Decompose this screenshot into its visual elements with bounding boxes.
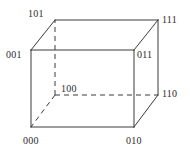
edge-100-000-hidden — [31, 95, 55, 127]
vertex-label-001: 001 — [6, 49, 22, 60]
cube-back-face-edges — [55, 20, 158, 127]
vertex-label-100: 100 — [61, 83, 77, 94]
vertex-label-110: 110 — [162, 88, 177, 99]
vertex-label-101: 101 — [28, 8, 44, 19]
vertex-label-000: 000 — [23, 135, 39, 146]
cube-hidden-edges — [31, 20, 158, 127]
vertex-label-111: 111 — [162, 14, 177, 25]
cube-front-face-edges — [31, 50, 134, 127]
edge-110-010 — [134, 95, 158, 127]
edge-011-111 — [134, 20, 158, 50]
edge-001-101 — [31, 20, 55, 50]
vertex-label-010: 010 — [126, 135, 142, 146]
cube-depth-edges — [31, 20, 158, 50]
vertex-label-011: 011 — [137, 49, 152, 60]
cube-diagram-canvas: 101 111 001 011 100 110 000 010 — [0, 0, 190, 153]
